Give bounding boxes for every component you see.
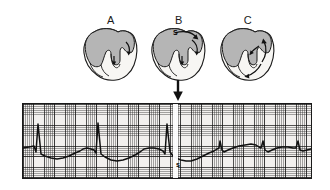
stimulus-pointer-arrow [172,80,184,102]
heart-diagram-b [146,26,212,84]
heart-diagram-c [215,26,281,84]
ecg-strip: s [22,103,312,179]
stimulus-site-label-b: S [173,29,178,36]
panel-label-c: C [238,14,258,26]
panel-label-b: B [169,14,189,26]
ecg-waveform [23,104,311,178]
heart-diagram-a [78,26,144,84]
stimulus-marker-label: s [176,161,180,168]
ecg-trace-path [23,123,311,161]
ecg-figure: A B C [0,0,330,190]
panel-label-a: A [101,14,121,26]
